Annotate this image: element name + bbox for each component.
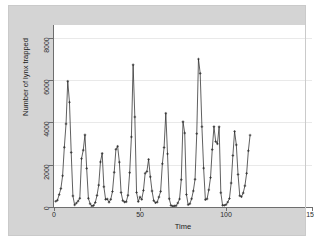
data-point-marker bbox=[128, 171, 131, 174]
x-tick-0 bbox=[54, 207, 55, 211]
data-point-marker bbox=[159, 190, 162, 193]
data-point-marker bbox=[104, 198, 107, 201]
lynx-series-plot bbox=[54, 25, 312, 207]
x-tick-label-100: 100 bbox=[220, 211, 231, 218]
data-point-marker bbox=[183, 132, 186, 135]
data-point-marker bbox=[237, 173, 240, 176]
data-point-marker bbox=[137, 200, 140, 203]
y-tick-label-6000: 6000 bbox=[43, 80, 50, 118]
data-point-marker bbox=[111, 190, 114, 193]
data-point-marker bbox=[85, 167, 88, 170]
data-point-marker bbox=[235, 144, 238, 147]
data-point-marker bbox=[135, 191, 138, 194]
data-point-marker bbox=[244, 185, 247, 188]
data-point-marker bbox=[208, 189, 211, 192]
data-point-marker bbox=[166, 153, 169, 156]
data-point-marker bbox=[61, 174, 64, 177]
data-point-marker bbox=[118, 161, 121, 164]
data-point-marker bbox=[106, 198, 109, 201]
data-point-marker bbox=[66, 80, 69, 83]
data-point-marker bbox=[151, 190, 154, 193]
data-point-marker bbox=[73, 204, 76, 207]
y-tick-2000 bbox=[49, 165, 53, 166]
gridline-y-6000 bbox=[54, 80, 312, 81]
x-tick-50 bbox=[140, 207, 141, 211]
data-point-marker bbox=[165, 112, 168, 115]
y-tick-4000 bbox=[49, 122, 53, 123]
data-point-marker bbox=[63, 146, 66, 149]
data-point-marker bbox=[163, 146, 166, 149]
data-point-marker bbox=[132, 63, 135, 66]
x-tick-label-50: 50 bbox=[136, 211, 144, 218]
data-point-marker bbox=[146, 170, 149, 173]
data-point-marker bbox=[177, 202, 180, 205]
data-point-marker bbox=[173, 205, 176, 207]
data-point-marker bbox=[240, 195, 243, 198]
data-point-marker bbox=[58, 193, 61, 196]
data-point-marker bbox=[70, 151, 73, 154]
data-point-marker bbox=[245, 172, 248, 175]
data-point-marker bbox=[187, 203, 190, 206]
gridline-y-0 bbox=[54, 207, 312, 208]
data-point-marker bbox=[142, 189, 145, 192]
data-point-marker bbox=[54, 200, 57, 203]
data-point-marker bbox=[238, 195, 241, 198]
data-point-marker bbox=[140, 198, 143, 201]
data-point-marker bbox=[171, 205, 174, 207]
data-point-marker bbox=[221, 204, 224, 207]
data-point-marker bbox=[178, 198, 181, 201]
data-point-marker bbox=[225, 203, 228, 206]
data-point-marker bbox=[125, 201, 128, 204]
data-point-marker bbox=[149, 176, 152, 179]
data-point-marker bbox=[87, 197, 90, 200]
data-point-marker bbox=[82, 149, 85, 152]
data-point-marker bbox=[194, 178, 197, 181]
data-point-marker bbox=[116, 145, 119, 148]
data-point-marker bbox=[134, 116, 137, 119]
data-point-marker bbox=[79, 197, 82, 200]
x-axis-line bbox=[53, 207, 312, 208]
data-point-marker bbox=[223, 204, 226, 207]
y-axis-title: Number of lynx trapped bbox=[21, 38, 30, 116]
gridline-y-4000 bbox=[54, 122, 312, 123]
data-point-marker bbox=[182, 120, 185, 123]
y-tick-label-8000: 8000 bbox=[43, 37, 50, 75]
data-point-marker bbox=[189, 202, 192, 205]
y-tick-8000 bbox=[49, 38, 53, 39]
data-point-marker bbox=[249, 134, 252, 137]
y-tick-label-4000: 4000 bbox=[43, 122, 50, 160]
data-point-marker bbox=[80, 157, 83, 160]
data-point-marker bbox=[115, 148, 118, 151]
data-point-marker bbox=[94, 201, 97, 204]
data-point-marker bbox=[228, 197, 231, 200]
y-axis-line bbox=[53, 25, 54, 207]
data-point-marker bbox=[103, 185, 106, 188]
data-point-marker bbox=[233, 130, 236, 133]
data-point-marker bbox=[199, 72, 202, 75]
data-point-marker bbox=[89, 203, 92, 206]
data-point-marker bbox=[242, 192, 245, 195]
chart-screenshot: 02000400060008000 050100150 Number of ly… bbox=[0, 0, 314, 250]
data-point-marker bbox=[75, 202, 78, 205]
data-point-marker bbox=[127, 194, 130, 197]
data-point-marker bbox=[197, 58, 200, 61]
data-point-marker bbox=[65, 123, 68, 126]
gridline-y-2000 bbox=[54, 165, 312, 166]
y-tick-label-0: 0 bbox=[43, 207, 50, 245]
data-point-marker bbox=[120, 191, 123, 194]
data-point-marker bbox=[144, 172, 147, 175]
data-point-marker bbox=[60, 187, 63, 190]
data-point-marker bbox=[139, 196, 142, 199]
x-tick-label-0: 0 bbox=[52, 211, 56, 218]
data-point-marker bbox=[232, 154, 235, 157]
data-point-marker bbox=[206, 198, 209, 201]
data-point-marker bbox=[168, 197, 171, 200]
data-point-marker bbox=[154, 201, 157, 204]
data-point-marker bbox=[218, 125, 221, 128]
data-point-marker bbox=[195, 132, 198, 135]
data-point-marker bbox=[170, 204, 173, 207]
data-point-marker bbox=[97, 184, 100, 187]
plot-area bbox=[54, 25, 312, 207]
y-tick-0 bbox=[49, 207, 53, 208]
data-point-marker bbox=[185, 193, 188, 196]
